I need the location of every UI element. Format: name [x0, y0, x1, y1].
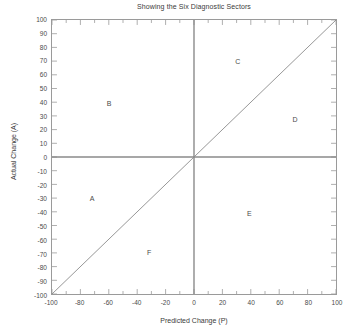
y-axis-title: Actual Change (A): [10, 82, 17, 222]
y-tick-label: 30: [40, 112, 47, 119]
y-tick-label: 90: [40, 29, 47, 36]
x-tick-label: 20: [219, 299, 226, 306]
x-tick-label: 100: [332, 299, 343, 306]
y-tick-label: 60: [40, 71, 47, 78]
x-tick-label: 40: [248, 299, 255, 306]
y-tick-label: -30: [38, 195, 47, 202]
y-tick-label: 100: [36, 16, 47, 23]
y-tick-label: -60: [38, 236, 47, 243]
y-tick-label: 50: [40, 85, 47, 92]
sector-label-e: E: [247, 210, 252, 217]
x-tick-label: 60: [276, 299, 283, 306]
y-tick-label: -90: [38, 278, 47, 285]
x-tick-label: -40: [132, 299, 141, 306]
y-tick-label: 40: [40, 98, 47, 105]
y-tick-label: 10: [40, 140, 47, 147]
x-tick-label: 0: [192, 299, 196, 306]
plot-svg: [52, 20, 336, 294]
x-tick-label: -100: [44, 299, 57, 306]
y-tick-label: -20: [38, 181, 47, 188]
sector-label-b: B: [107, 99, 112, 106]
y-tick-label: -80: [38, 264, 47, 271]
sector-label-a: A: [90, 195, 95, 202]
sector-label-f: F: [147, 248, 151, 255]
y-tick-label: 70: [40, 57, 47, 64]
sector-label-d: D: [293, 116, 298, 123]
x-tick-label: -20: [161, 299, 170, 306]
chart-title: Showing the Six Diagnostic Sectors: [51, 3, 337, 10]
y-tick-label: -50: [38, 223, 47, 230]
x-axis-title: Predicted Change (P): [51, 317, 337, 324]
x-tick-label: 80: [305, 299, 312, 306]
y-tick-label: 80: [40, 43, 47, 50]
plot-area: ABCDEF: [51, 19, 337, 295]
y-axis-tick-labels: -100-90-80-70-60-50-40-30-20-10010203040…: [0, 19, 47, 295]
y-tick-label: -100: [34, 292, 47, 299]
y-tick-label: -40: [38, 209, 47, 216]
y-tick-label: 20: [40, 126, 47, 133]
x-axis-tick-labels: -100-80-60-40-20020406080100: [51, 299, 337, 311]
y-tick-label: 0: [43, 154, 47, 161]
sector-label-c: C: [235, 58, 240, 65]
chart-figure: Showing the Six Diagnostic Sectors ABCDE…: [0, 0, 351, 336]
x-tick-label: -80: [75, 299, 84, 306]
x-tick-label: -60: [103, 299, 112, 306]
y-tick-label: -70: [38, 250, 47, 257]
y-tick-label: -10: [38, 167, 47, 174]
